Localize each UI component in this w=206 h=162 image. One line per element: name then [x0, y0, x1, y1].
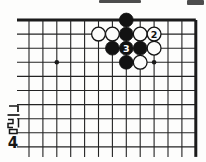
scan-artifact — [187, 0, 204, 5]
figure-caption: 4 — [2, 103, 24, 151]
go-diagram-figure: 23 4 — [0, 0, 206, 162]
black-stone — [106, 41, 120, 55]
hangul-geu — [7, 106, 19, 115]
white-stone — [92, 27, 106, 41]
stone-label-2: 2 — [151, 29, 158, 40]
star-point — [152, 60, 157, 65]
white-stone — [147, 41, 161, 55]
black-stone — [119, 13, 133, 27]
white-stone — [133, 27, 147, 41]
go-board: 23 — [0, 0, 206, 162]
black-stone — [133, 41, 147, 55]
white-stone — [133, 55, 147, 69]
caption-hangul — [6, 103, 21, 135]
scan-artifact — [99, 0, 141, 3]
white-stone — [106, 27, 120, 41]
star-point — [55, 60, 60, 65]
black-stone — [119, 27, 133, 41]
hangul-rim — [8, 119, 19, 134]
black-stone — [119, 55, 133, 69]
figure-number: 4 — [8, 136, 18, 151]
stone-label-3: 3 — [123, 43, 130, 54]
